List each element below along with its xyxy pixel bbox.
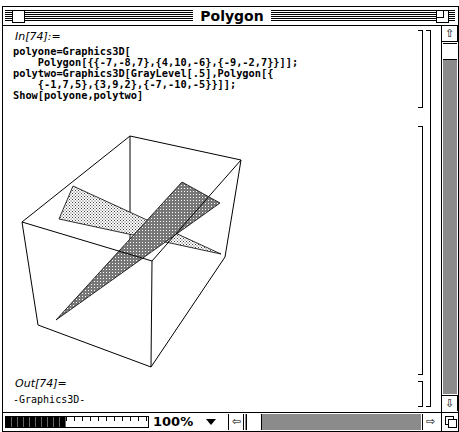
title-stripes-right [271,10,455,21]
graphics-cell-bracket[interactable] [418,126,423,375]
zoom-level[interactable]: 100% [153,413,193,431]
status-bar: 100% ⇦ ⇨ [3,412,458,431]
window-title: Polygon [193,8,271,24]
title-stripes-left [5,10,193,21]
scroll-left-button[interactable]: ⇦ [228,414,244,430]
output-label: Out[74]= [15,377,67,390]
graphics3d-plot[interactable] [3,26,441,412]
scroll-up-button[interactable]: ⇧ [442,26,458,42]
magnification-slider[interactable] [5,416,149,428]
close-box-button[interactable] [12,10,25,23]
vertical-scrollbar[interactable]: ⇧ ⇩ [441,26,458,412]
horizontal-scroll-thumb[interactable] [246,414,262,430]
input-cell-bracket[interactable] [418,30,423,108]
arrow-right-icon: ⇨ [426,415,435,427]
resize-grow-box[interactable] [441,413,458,431]
arrow-down-icon: ⇩ [445,397,454,409]
arrow-left-icon: ⇦ [232,415,241,427]
zoom-box-button[interactable] [436,10,449,23]
title-bar[interactable]: Polygon [3,7,458,26]
vertical-scroll-track[interactable] [443,43,457,394]
grow-icon-front [448,419,457,428]
notebook-window: Polygon In[74]:= polyone=Graphics3D[ Pol… [2,6,459,432]
zoom-dropdown-icon[interactable] [206,419,216,425]
output-value: -Graphics3D- [13,394,85,405]
scroll-down-button[interactable]: ⇩ [442,395,458,411]
output-cell-bracket[interactable] [418,381,423,407]
group-cell-bracket[interactable] [426,30,431,407]
arrow-up-icon: ⇧ [445,27,454,39]
horizontal-scroll-track[interactable] [245,414,421,430]
vertical-scroll-thumb[interactable] [443,43,457,60]
scroll-right-button[interactable]: ⇨ [422,414,438,430]
notebook-content[interactable]: In[74]:= polyone=Graphics3D[ Polygon[{{-… [3,26,441,412]
magnification-ticks [66,417,148,421]
magnification-fill [6,417,66,427]
